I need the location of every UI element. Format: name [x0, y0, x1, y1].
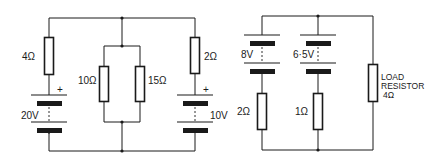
battery-20v-label: 20V	[21, 110, 39, 121]
battery-short-plate	[250, 69, 275, 74]
resistor-15ohm-body	[136, 67, 145, 102]
parallel-top-rail	[104, 46, 140, 66]
resistor-15ohm: 15Ω	[136, 67, 168, 102]
battery-short-plate	[250, 41, 275, 46]
parallel-bottom-rail	[104, 102, 140, 122]
junction-dot	[316, 148, 319, 151]
load-resistor-body	[369, 65, 378, 102]
battery-10v-plus: +	[203, 84, 209, 95]
resistor-4ohm-body	[45, 38, 54, 75]
resistor-2ohm-right: 2Ω	[237, 94, 267, 130]
resistor-10ohm: 10Ω	[78, 67, 109, 102]
left-circuit	[49, 18, 195, 151]
battery-10v-label: 10V	[210, 110, 228, 121]
resistor-15ohm-label: 15Ω	[148, 75, 167, 86]
junction-dot	[316, 14, 319, 17]
battery-short-plate	[183, 101, 208, 106]
resistor-2ohm-label: 2Ω	[237, 106, 251, 117]
resistor-4ohm: 4Ω	[22, 38, 54, 75]
battery-6-5v-label: 6·5V	[293, 49, 314, 60]
battery-short-plate	[37, 101, 62, 106]
battery-short-plate	[306, 69, 331, 74]
resistor-2ohm-body	[258, 94, 267, 130]
resistor-4ohm-label: 4Ω	[22, 51, 36, 62]
battery-short-plate	[37, 128, 62, 133]
junction-dot	[120, 149, 123, 152]
battery-8v-label: 8V	[241, 49, 254, 60]
battery-20v-plus: +	[57, 84, 63, 95]
resistor-1ohm-body	[314, 94, 323, 130]
battery-20v: + 20V	[21, 84, 67, 134]
resistor-1ohm-label: 1Ω	[295, 106, 309, 117]
junction-dot	[120, 44, 123, 47]
resistor-10ohm-label: 10Ω	[78, 75, 97, 86]
battery-8v: 8V	[241, 35, 280, 74]
junction-dot	[120, 120, 123, 123]
load-resistor-label-line3: 4Ω	[383, 90, 394, 100]
battery-short-plate	[306, 41, 331, 46]
resistor-2ohm-left: 2Ω	[191, 38, 218, 74]
battery-6-5v: 6·5V	[293, 35, 336, 74]
resistor-1ohm: 1Ω	[295, 94, 323, 130]
resistor-10ohm-body	[100, 67, 109, 102]
load-resistor: LOAD RESISTOR 4Ω	[369, 65, 425, 102]
resistor-2ohm-body	[191, 38, 200, 74]
resistor-2ohm-label: 2Ω	[204, 51, 218, 62]
junction-dot	[120, 16, 123, 19]
battery-short-plate	[183, 128, 208, 133]
battery-10v: + 10V	[177, 84, 228, 133]
circuit-diagram: 4Ω + 20V 10Ω 15Ω 2Ω + 10V	[0, 0, 446, 165]
